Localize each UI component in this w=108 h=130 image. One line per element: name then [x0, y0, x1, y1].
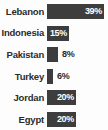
chart-row: Indonesia 15% — [0, 24, 108, 43]
bar-pakistan — [47, 47, 58, 62]
horizontal-bar-chart: Lebanon 39% Indonesia 15% Pakistan 8% Tu… — [0, 0, 108, 130]
category-label-jordan: Jordan — [0, 93, 47, 103]
bar-jordan: 20% — [47, 90, 76, 105]
value-label-egypt: 20% — [57, 115, 74, 124]
bar-area-jordan: 20% — [47, 90, 108, 105]
chart-row: Turkey 6% — [0, 67, 108, 86]
chart-row: Jordan 20% — [0, 88, 108, 107]
bar-egypt: 20% — [47, 112, 76, 127]
bar-indonesia: 15% — [47, 26, 69, 41]
category-label-lebanon: Lebanon — [0, 7, 47, 17]
category-label-turkey: Turkey — [0, 72, 47, 82]
chart-row: Lebanon 39% — [0, 2, 108, 21]
value-label-lebanon: 39% — [85, 7, 102, 16]
bar-area-lebanon: 39% — [47, 4, 108, 19]
value-label-turkey: 6% — [57, 72, 69, 81]
category-label-pakistan: Pakistan — [0, 50, 47, 60]
bar-lebanon: 39% — [47, 4, 104, 19]
category-label-indonesia: Indonesia — [0, 28, 47, 38]
bar-area-egypt: 20% — [47, 112, 108, 127]
chart-row: Pakistan 8% — [0, 45, 108, 64]
value-label-indonesia: 15% — [50, 29, 67, 38]
value-label-pakistan: 8% — [62, 50, 74, 59]
bar-area-indonesia: 15% — [47, 26, 108, 41]
bar-area-turkey: 6% — [47, 69, 108, 84]
bar-turkey — [47, 69, 53, 84]
value-label-jordan: 20% — [57, 93, 74, 102]
bar-area-pakistan: 8% — [47, 47, 108, 62]
category-label-egypt: Egypt — [0, 115, 47, 125]
chart-row: Egypt 20% — [0, 110, 108, 129]
